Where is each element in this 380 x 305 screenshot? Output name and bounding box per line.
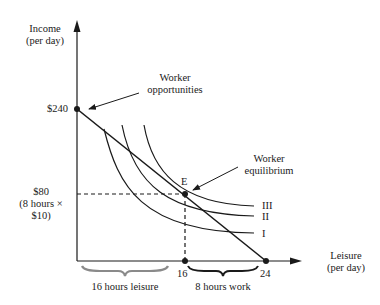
x-axis-label: Leisure (per day) (318, 250, 374, 274)
work-brace-label: 8 hours work (185, 281, 261, 293)
point-e-label: E (181, 176, 187, 188)
equilibrium-arrow (193, 167, 238, 190)
point-240 (74, 106, 80, 112)
work-brace (188, 266, 258, 276)
x-tick-16: 16 (177, 268, 188, 280)
point-e (182, 191, 188, 197)
x-axis-arrow-icon (290, 258, 302, 265)
leisure-brace-label: 16 hours leisure (80, 281, 170, 293)
opportunities-label: Worker opportunities (135, 72, 215, 96)
equilibrium-label: Worker equilibrium (234, 153, 304, 177)
indifference-curve-i (104, 129, 254, 233)
curve-i-label: I (262, 228, 266, 240)
x-tick-24: 24 (260, 268, 271, 280)
point-24 (263, 258, 269, 264)
leisure-brace (82, 266, 168, 276)
y-tick-80: $80 (8 hours × $10) (12, 186, 70, 222)
curve-ii-label: II (262, 211, 269, 223)
point-16 (182, 258, 188, 264)
y-axis-arrow-icon (74, 20, 81, 32)
budget-line (77, 109, 266, 261)
opportunities-arrow (89, 93, 139, 109)
y-axis-label: Income (per day) (18, 23, 72, 47)
y-tick-240: $240 (30, 103, 68, 115)
